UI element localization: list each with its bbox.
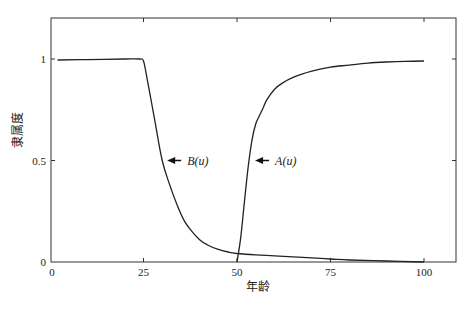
x-tick-label: 100	[416, 266, 433, 278]
y-tick-label: 0	[41, 256, 47, 268]
series-lines	[58, 59, 425, 262]
series-line-au	[237, 61, 424, 262]
series-line-bu	[58, 59, 425, 262]
x-axis-label: 年龄	[246, 280, 270, 294]
y-axis-label: 隶属度	[10, 112, 25, 148]
plot-border	[51, 18, 456, 262]
arrowhead-icon	[167, 157, 175, 164]
x-tick-label: 50	[232, 266, 244, 278]
x-tick-label: 75	[325, 266, 337, 278]
y-tick-label: 1	[41, 53, 47, 65]
x-tick-label: 25	[138, 266, 150, 278]
annotation-label: B(u)	[187, 154, 208, 168]
annotations: B(u)A(u)	[167, 154, 296, 168]
y-tick-label: 0.5	[32, 155, 46, 167]
membership-function-chart: 025507510000.51 B(u)A(u) 年龄 隶属度	[0, 0, 475, 310]
annotation-label: A(u)	[274, 154, 296, 168]
axis-ticks: 025507510000.51	[32, 18, 456, 278]
x-tick-label: 0	[49, 266, 55, 278]
arrowhead-icon	[255, 157, 263, 164]
plot-frame	[51, 18, 456, 262]
